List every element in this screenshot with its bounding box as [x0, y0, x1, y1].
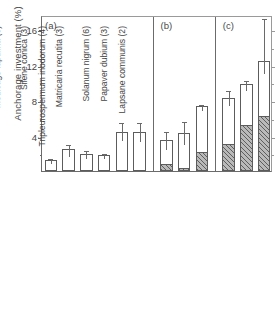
y-right-minor-tick-14	[271, 49, 274, 50]
error-bar	[229, 91, 230, 106]
bar-hatched-segment	[179, 168, 190, 170]
error-bar-cap	[137, 123, 142, 124]
error-bar-cap	[66, 145, 71, 146]
x-axis-label: Matricaria recutita (3)	[54, 26, 64, 176]
x-axis-label: Silene conica (3)	[19, 26, 29, 176]
error-bar	[184, 122, 185, 144]
y-right-tick-12	[271, 67, 275, 68]
panel-tag-c: (c)	[223, 20, 234, 31]
y-right-tick-4	[271, 138, 275, 139]
plot-area: 481216 (a)(b)(c)	[41, 16, 272, 172]
error-bar-cap	[182, 122, 187, 123]
error-bar-cap	[48, 159, 53, 160]
error-bar	[166, 132, 167, 150]
panel-tag-b: (b)	[161, 20, 173, 31]
y-right-tick-8	[271, 102, 275, 103]
bar-hatched-segment	[161, 164, 172, 170]
bar-hatched-segment	[241, 125, 252, 170]
x-axis-label: Medicago lupulina (6)	[0, 26, 2, 176]
error-bar	[140, 123, 141, 142]
y-right-minor-tick-6	[271, 120, 274, 121]
bar-hatched-segment	[197, 152, 208, 170]
error-bar-cap	[164, 132, 169, 133]
x-axis-label: Lapsane communis (2)	[117, 26, 127, 176]
error-bar-cap	[262, 19, 267, 20]
bar-hatched-segment	[259, 116, 270, 170]
x-axis-label: Papaver dubium (3)	[99, 26, 109, 176]
y-right-tick-16	[271, 31, 275, 32]
error-bar	[264, 19, 265, 74]
panel-divider	[215, 17, 216, 171]
bar	[196, 106, 209, 171]
x-axis-label: Solanum nigrum (6)	[81, 26, 91, 176]
y-right-minor-tick-2	[271, 155, 274, 156]
bar	[222, 98, 235, 171]
error-bar	[246, 81, 247, 91]
bar-hatched-segment	[223, 144, 234, 170]
error-bar-cap	[199, 105, 204, 106]
x-axis-label: Tripleurospermum inodorum (4)	[37, 26, 47, 176]
y-right-minor-tick-10	[271, 84, 274, 85]
bar	[240, 84, 253, 171]
panel-divider	[153, 17, 154, 171]
error-bar	[69, 145, 70, 158]
error-bar-cap	[244, 81, 249, 82]
error-bar-cap	[226, 91, 231, 92]
figure: Anchorage investment (%) 481216 (a)(b)(c…	[0, 0, 275, 329]
bar	[258, 61, 271, 171]
